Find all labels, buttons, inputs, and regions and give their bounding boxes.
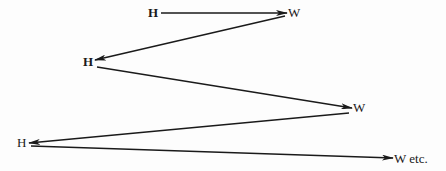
arrow-h2-to-w2 [97, 67, 352, 108]
arrow-h3-to-w3 [31, 146, 393, 158]
node-h3: H [17, 136, 26, 150]
node-w3: W etc. [394, 152, 428, 166]
arrow-w2-to-h3 [29, 113, 349, 143]
node-w2: W [353, 101, 365, 115]
node-w1: W [288, 6, 300, 20]
arrow-w1-to-h2 [95, 16, 285, 60]
node-h2: H [83, 55, 93, 69]
node-h1: H [148, 6, 158, 20]
diagram-canvas: H W H W H W etc. [0, 0, 446, 171]
arrows-layer [0, 0, 446, 171]
